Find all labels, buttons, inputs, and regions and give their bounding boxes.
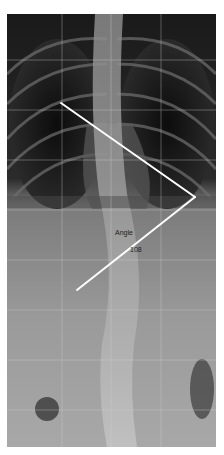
xray-image: Angle 108 (7, 14, 216, 447)
bowel-gas-left (35, 397, 59, 421)
xray-canvas (7, 14, 216, 447)
angle-value: 108 (130, 246, 142, 253)
angle-label: Angle (115, 229, 133, 236)
